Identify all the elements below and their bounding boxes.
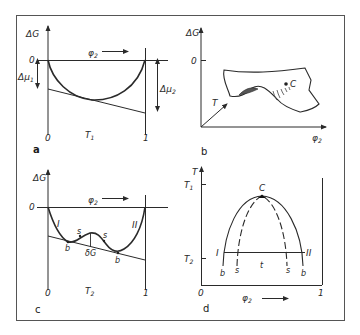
binodal-label-left: b [65,244,70,253]
phi2-label: φ2 [242,293,252,304]
x-start-label: 0 [45,288,51,298]
panel-letter: b [201,146,207,157]
phi2-label: φ2 [88,195,98,206]
delta-g-label: ΔG [32,173,46,183]
binodal-point-right [117,252,120,255]
temperature-label: T1 [85,130,94,141]
common-tangent [48,236,145,260]
spinodal-label-left: s [77,227,81,236]
phase-two-label: II [132,220,138,230]
x-start-label: 0 [198,288,204,298]
panel-letter: d [203,303,209,314]
zero-label: 0 [29,55,35,65]
temperature-label: T2 [85,286,95,297]
phi2-label: φ2 [312,133,322,144]
spinodal-label-right: s [286,266,290,275]
x-end-label: 1 [318,288,324,298]
phase-two-label: II [306,248,312,258]
delta-g-label: ΔG [25,29,39,39]
panel-letter: a [33,144,40,155]
binodal-curve [223,196,303,266]
t1-label: T1 [184,180,193,191]
free-energy-surface [224,68,319,112]
delta-g-label: ΔG [185,28,199,38]
free-energy-curve [48,60,145,100]
critical-label: C [259,183,266,193]
phase-one-label: I [57,219,60,229]
x-end-label: 1 [143,288,149,298]
panel-a: ΔG 0 Δμ1 Δμ2 φ2 0 T1 1 a [17,26,176,155]
panel-d: T T1 T2 C I II b s t s b 0 φ2 1 d [184,167,324,314]
spinodal-hatching [273,87,290,100]
figure-frame [17,16,345,321]
phi2-label: φ2 [88,48,98,59]
temperature-axis-label: T [192,167,199,177]
phase-one-label: I [216,248,219,258]
temperature-axis-label: T [212,98,219,108]
critical-label: C [290,79,297,89]
panel-b: C ΔG 0 T φ2 b [185,28,326,157]
binodal-point-left [67,241,70,244]
surface-fold [239,88,258,95]
tieline-label: t [260,261,264,270]
spinodal-label-right: s [103,231,107,240]
zero-label: 0 [29,202,35,212]
phase-diagram-figure: ΔG 0 Δμ1 Δμ2 φ2 0 T1 1 a C ΔG 0 T φ2 b [0,0,360,335]
x-start-label: 0 [45,133,51,143]
panel-letter: c [35,304,41,315]
t2-label: T2 [184,254,194,265]
x-end-label: 1 [143,133,149,143]
tangent-line [48,89,145,113]
critical-point [284,82,288,86]
binodal-label-left: b [220,269,225,278]
free-energy-curve [48,207,145,251]
spinodal-point-right [103,240,105,242]
panel-c: ΔG 0 φ2 I II b s s b δG 0 T2 1 c [29,170,168,315]
delta-mu1-label: Δμ1 [17,72,34,83]
binodal-label-right: b [301,269,306,278]
zero-label: 0 [191,56,197,66]
delta-g-small-label: δG [85,249,96,258]
binodal-label-right: b [115,256,120,265]
spinodal-label-left: s [235,266,239,275]
spinodal-curve [237,196,287,266]
delta-mu2-label: Δμ2 [159,84,176,95]
